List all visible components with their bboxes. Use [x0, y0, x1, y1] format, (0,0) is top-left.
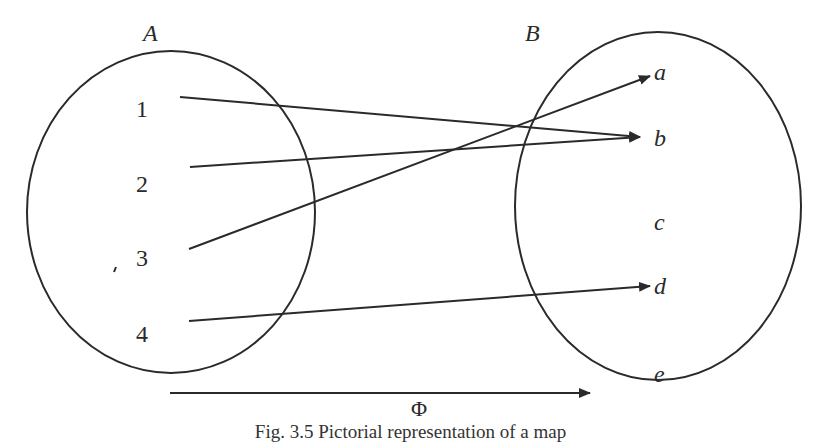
set-b-element-c: c — [654, 209, 665, 235]
set-b-element-d: d — [654, 273, 667, 299]
arrow-1-to-b — [180, 97, 640, 137]
set-a-ellipse — [27, 51, 315, 373]
set-b-element-b: b — [654, 125, 666, 151]
set-a-element-1: 1 — [136, 96, 148, 122]
stray-mark — [114, 267, 116, 272]
set-a-element-4: 4 — [136, 321, 148, 347]
set-a-element-2: 2 — [136, 171, 148, 197]
set-b-element-a: a — [654, 59, 666, 85]
set-a-label: A — [141, 20, 158, 46]
map-phi-label: Φ — [411, 396, 427, 421]
set-b-label: B — [525, 20, 540, 46]
set-a-element-3: 3 — [136, 245, 148, 271]
set-b-element-e: e — [654, 361, 665, 387]
figure-caption: Fig. 3.5 Pictorial representation of a m… — [0, 421, 821, 443]
arrow-2-to-b — [190, 137, 640, 167]
arrow-4-to-d — [189, 286, 650, 321]
